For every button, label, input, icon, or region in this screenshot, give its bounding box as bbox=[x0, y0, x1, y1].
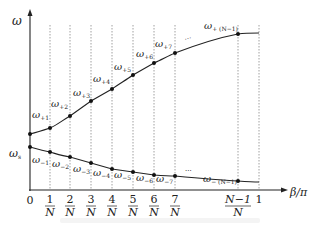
svg-text:3: 3 bbox=[88, 193, 95, 206]
svg-text:5: 5 bbox=[130, 193, 137, 206]
label-omega-plus-1: ω+1 bbox=[32, 109, 49, 121]
upper-ellipsis: ··· bbox=[184, 34, 193, 43]
tick-0: 0 bbox=[27, 194, 34, 207]
label-omega-minus-1: ω−1 bbox=[32, 154, 49, 166]
svg-text:4: 4 bbox=[109, 193, 116, 206]
label-omega-minus-7: ω−7 bbox=[156, 173, 173, 185]
label-omega-minus-3: ω−3 bbox=[73, 163, 90, 175]
svg-text:N: N bbox=[44, 206, 55, 219]
svg-text:2: 2 bbox=[67, 193, 74, 206]
label-omega-minus-4: ω−4 bbox=[93, 167, 110, 179]
lower-labels: ω−1 ω−2 ω−3 ω−4 ω−5 ω−6 ω−7 ω− (N−1) bbox=[32, 154, 237, 185]
lower-ellipsis: ··· bbox=[185, 167, 192, 175]
label-omega-minus-n-1: ω− (N−1) bbox=[203, 173, 237, 185]
y-axis-label: ω bbox=[12, 14, 22, 28]
frequency-diagram: ω β/π ωs ω+1 ω+2 ω+3 ω+4 ω+5 ω+6 ω+7 ω+ … bbox=[0, 0, 314, 227]
faint-caption bbox=[60, 218, 260, 223]
label-omega-minus-2: ω−2 bbox=[52, 158, 69, 170]
label-omega-plus-5: ω+5 bbox=[114, 61, 131, 73]
x-axis-label: β/π bbox=[289, 186, 308, 199]
label-omega-plus-3: ω+3 bbox=[73, 87, 90, 99]
label-omega-plus-7: ω+7 bbox=[155, 38, 172, 50]
tick-1: 1 bbox=[256, 193, 263, 206]
omega-s-label: ωs bbox=[9, 147, 21, 160]
upper-curve bbox=[30, 33, 259, 134]
svg-text:N−1: N−1 bbox=[224, 193, 251, 206]
label-omega-plus-6: ω+6 bbox=[136, 48, 153, 60]
label-omega-plus-n-1: ω+ (N−1) bbox=[204, 20, 238, 32]
x-tick-labels: 0 1 N 2 N 3 N 4 N 5 N 6 N 7 N N−1 N 1 bbox=[27, 193, 263, 219]
svg-text:7: 7 bbox=[172, 193, 179, 206]
upper-points bbox=[28, 32, 240, 136]
upper-labels: ω+1 ω+2 ω+3 ω+4 ω+5 ω+6 ω+7 ω+ (N−1) bbox=[32, 20, 238, 121]
svg-text:1: 1 bbox=[47, 193, 54, 206]
label-omega-plus-4: ω+4 bbox=[93, 73, 110, 85]
label-omega-plus-2: ω+2 bbox=[51, 98, 68, 110]
svg-text:6: 6 bbox=[151, 193, 158, 206]
